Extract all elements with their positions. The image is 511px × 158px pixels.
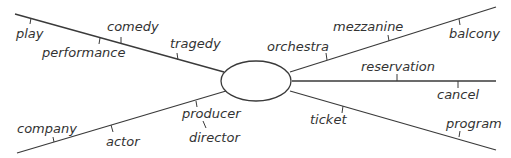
label-play: play (15, 26, 44, 41)
tick-director (203, 121, 206, 128)
label-director: director (189, 130, 241, 145)
label-ticket: ticket (310, 112, 347, 127)
label-reservation: reservation (361, 59, 435, 74)
tick-orchestra (326, 53, 327, 60)
label-program: program (445, 116, 502, 131)
label-mezzanine: mezzanine (333, 19, 403, 34)
center-ellipse (221, 61, 291, 101)
tick-mezzanine (388, 35, 389, 41)
tick-actor (111, 125, 113, 132)
tick-company (53, 137, 54, 142)
label-balcony: balcony (449, 26, 500, 41)
tick-program (459, 131, 460, 137)
label-producer: producer (181, 106, 242, 121)
label-tragedy: tragedy (170, 36, 221, 51)
label-orchestra: orchestra (267, 39, 329, 54)
label-company: company (17, 121, 77, 136)
label-cancel: cancel (437, 87, 479, 102)
tick-balcony (459, 19, 460, 25)
label-actor: actor (106, 134, 141, 149)
word-web-diagram: play performance comedy tragedy company … (0, 0, 511, 158)
label-comedy: comedy (107, 19, 159, 34)
label-performance: performance (41, 45, 125, 60)
tick-performance (99, 38, 100, 44)
tick-play (30, 18, 31, 24)
